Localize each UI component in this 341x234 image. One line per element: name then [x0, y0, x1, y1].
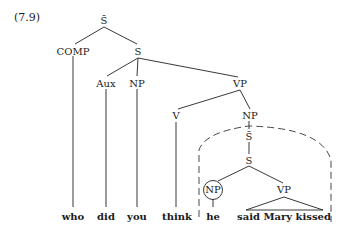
node-np-subject: NP — [129, 78, 145, 89]
node-comp: COMP — [57, 46, 90, 57]
node-root-sbar: S̄ — [101, 15, 108, 26]
word-did: did — [97, 211, 115, 222]
terminal-words: who did you think he said Mary kissed — [61, 211, 331, 222]
node-s: S — [135, 46, 142, 57]
node-embedded-np: NP — [205, 184, 221, 195]
phrase-said-mary-kissed: said Mary kissed — [237, 211, 331, 222]
node-embedded-vp: VP — [276, 184, 291, 195]
node-embedded-sbar: S̄ — [246, 131, 253, 142]
word-who: who — [61, 211, 85, 222]
example-number: (7.9) — [14, 11, 40, 24]
node-aux: Aux — [95, 78, 116, 89]
word-you: you — [126, 211, 147, 222]
node-embedded-s: S — [246, 155, 253, 166]
word-think: think — [162, 211, 193, 222]
tree-edges — [73, 27, 323, 210]
node-v: V — [171, 110, 180, 121]
syntax-tree-diagram: (7.9) S̄ COMP S — [0, 0, 341, 234]
word-he: he — [206, 211, 220, 222]
node-vp: VP — [232, 78, 247, 89]
node-np-object: NP — [242, 110, 258, 121]
tree-nodes: S̄ COMP S Aux NP VP V NP S̄ S NP VP — [57, 15, 292, 195]
